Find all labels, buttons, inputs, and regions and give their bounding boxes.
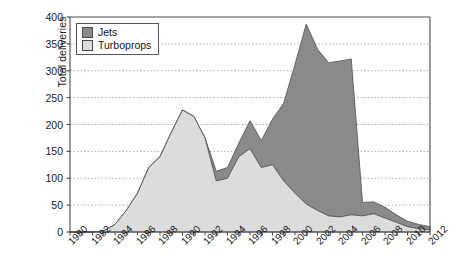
chart-container: Total deliveries 05010015020025030035040… <box>0 0 465 275</box>
legend-label-turboprops: Turboprops <box>98 40 151 51</box>
area-series-group <box>70 24 430 232</box>
legend-swatch-turboprops <box>82 40 93 51</box>
legend-item-jets: Jets <box>82 27 151 38</box>
legend-swatch-jets <box>82 27 93 38</box>
legend-label-jets: Jets <box>98 27 117 38</box>
chart-legend: Jets Turboprops <box>76 23 159 55</box>
legend-item-turboprops: Turboprops <box>82 40 151 51</box>
